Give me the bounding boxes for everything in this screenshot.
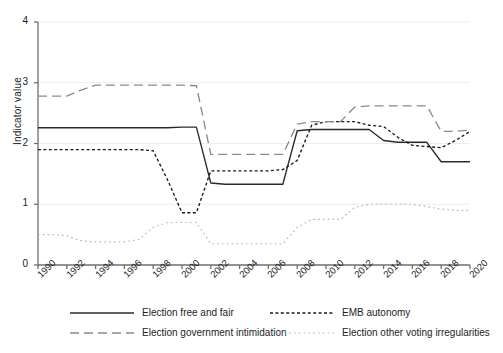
legend-label: Election other voting irregularities	[342, 327, 490, 338]
legend-label: EMB autonomy	[342, 307, 410, 318]
legend-swatch-dashed-dense	[270, 308, 334, 318]
y-axis-title: Indicator value	[12, 77, 23, 145]
data-series-group	[38, 85, 470, 244]
series-line-1	[38, 122, 470, 213]
y-tick-label-3: 3	[8, 76, 28, 87]
legend-swatch-dashed-long	[70, 328, 134, 338]
series-line-3	[38, 204, 470, 243]
series-line-2	[38, 85, 470, 154]
legend-item-0[interactable]: Election free and fair	[70, 307, 234, 318]
legend-swatch-solid	[70, 308, 134, 318]
y-tick-label-2: 2	[8, 137, 28, 148]
y-tick-label-1: 1	[8, 197, 28, 208]
series-line-0	[38, 127, 470, 184]
legend-item-2[interactable]: Election government intimidation	[70, 327, 287, 338]
y-tick-label-0: 0	[8, 258, 28, 269]
legend-item-3[interactable]: Election other voting irregularities	[270, 327, 490, 338]
legend-label: Election government intimidation	[142, 327, 287, 338]
y-tick-label-4: 4	[8, 15, 28, 26]
legend-item-1[interactable]: EMB autonomy	[270, 307, 410, 318]
gridlines	[38, 22, 470, 204]
chart-figure: Indicator value 01234 199019921994199619…	[0, 0, 503, 353]
chart-legend: Election free and fairEMB autonomyElecti…	[0, 301, 503, 353]
legend-label: Election free and fair	[142, 307, 234, 318]
legend-swatch-dotted-sparse	[270, 328, 334, 338]
y-axis-title-wrap: Indicator value	[7, 51, 25, 171]
